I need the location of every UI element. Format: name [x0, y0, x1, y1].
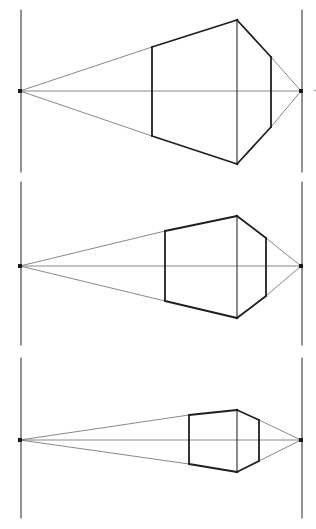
left-vp-top-construction-line: [20, 415, 189, 440]
left-vp-top-construction-line: [20, 47, 152, 91]
right-vanishing-point: [299, 89, 303, 93]
right-vanishing-point: [299, 438, 303, 442]
corner-point: [236, 215, 239, 218]
corner-point: [236, 471, 239, 474]
perspective-diagram: [0, 0, 316, 529]
right-vp-bottom-construction-line: [271, 91, 301, 127]
box-left-top-edge: [152, 20, 237, 47]
box-right-top-edge: [237, 410, 259, 420]
left-vp-bottom-construction-line: [20, 440, 189, 464]
left-vp-bottom-construction-line: [20, 266, 165, 301]
right-vp-top-construction-line: [271, 57, 301, 91]
left-vanishing-point: [18, 89, 22, 93]
box-left-bottom-edge: [165, 301, 237, 318]
figure-2: [18, 182, 303, 345]
corner-point: [236, 19, 239, 22]
right-vp-bottom-construction-line: [259, 440, 301, 461]
box-left-top-edge: [165, 216, 237, 231]
right-vp-top-construction-line: [266, 238, 301, 266]
right-vanishing-point: [299, 264, 303, 268]
left-vanishing-point: [18, 438, 22, 442]
box-right-bottom-edge: [237, 461, 259, 472]
box-right-bottom-edge: [237, 296, 266, 318]
left-vp-top-construction-line: [20, 231, 165, 266]
corner-point: [236, 409, 239, 412]
box-left-bottom-edge: [189, 464, 237, 472]
box-left-top-edge: [189, 410, 237, 415]
box-left-bottom-edge: [152, 136, 237, 164]
figure-3: [18, 358, 303, 518]
corner-point: [236, 317, 239, 320]
box-right-top-edge: [237, 20, 271, 57]
right-vp-bottom-construction-line: [266, 266, 301, 296]
stray-tick-mark: [314, 90, 316, 91]
box-right-top-edge: [237, 216, 266, 238]
left-vanishing-point: [18, 264, 22, 268]
right-vp-top-construction-line: [259, 420, 301, 440]
left-vp-bottom-construction-line: [20, 91, 152, 136]
figure-1: [18, 10, 303, 172]
corner-point: [236, 163, 239, 166]
box-right-bottom-edge: [237, 127, 271, 164]
